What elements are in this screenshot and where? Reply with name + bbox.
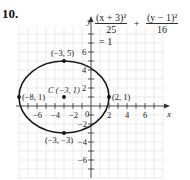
x-tick-label: 6 — [143, 110, 147, 120]
y-tick-label: 2 — [82, 83, 86, 93]
equation-term-1: (x + 3)² 25 — [95, 12, 127, 35]
x-tick-label: 2 — [107, 110, 111, 120]
point-right — [107, 95, 111, 99]
x-tick-label: −2 — [69, 110, 78, 120]
x-tick-label: −6 — [33, 110, 42, 120]
y-tick-label: −4 — [78, 137, 88, 147]
y-tick-label: 6 — [82, 47, 86, 57]
x-axis-label: x — [166, 109, 171, 119]
point-center — [62, 95, 66, 99]
equation-plus: + — [134, 18, 140, 29]
y-tick-label: −6 — [78, 155, 87, 165]
point-left — [17, 95, 21, 99]
point-bottom-label: (−3, −3) — [45, 135, 73, 145]
point-right-label: (2, 1) — [112, 92, 131, 102]
point-left-label: (−8, 1) — [22, 92, 45, 102]
equation-equals: = 1 — [99, 36, 112, 47]
point-top-label: (−3, 5) — [51, 48, 74, 58]
center-label: C (−3, 1) — [48, 85, 80, 95]
equation-term-2: (y − 1)² 16 — [146, 12, 178, 35]
origin-label: 0 — [85, 109, 89, 119]
x-tick-label: −4 — [51, 110, 61, 120]
equation: (x + 3)² 25 + (y − 1)² 16 = 1 — [95, 12, 190, 47]
y-tick-label: −2 — [78, 119, 87, 129]
point-top — [62, 59, 66, 63]
x-axis-arrow-icon — [164, 104, 170, 109]
y-axis-label: y — [86, 16, 91, 26]
